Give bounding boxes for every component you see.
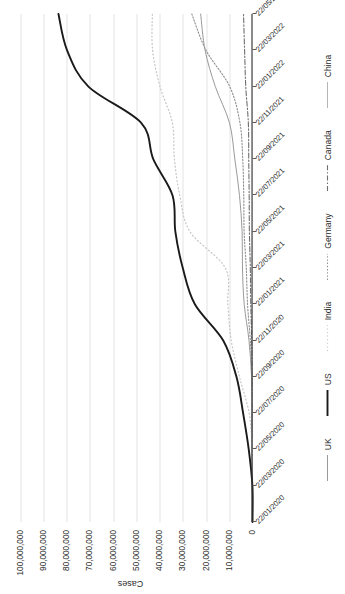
- chart-screenshot: Cases 010,000,00020,000,00030,000,00040,…: [0, 0, 345, 594]
- x-axis-tick-label: 22/05/2021: [254, 204, 286, 236]
- x-axis-tick-label: 22/01/2022: [254, 58, 286, 90]
- y-axis-tick-label: 20,000,000: [201, 530, 209, 571]
- x-axis-tick-labels: 22/01/202022/03/202022/05/202022/07/2020…: [252, 14, 310, 522]
- rotated-figure-container: Cases 010,000,00020,000,00030,000,00040,…: [0, 0, 345, 594]
- y-axis-tick-labels: 010,000,00020,000,00030,000,00040,000,00…: [8, 526, 252, 594]
- legend-swatch-india-icon: [323, 325, 331, 351]
- legend-item-uk[interactable]: UK: [322, 438, 332, 481]
- series-line-us: [58, 14, 252, 522]
- x-axis-tick-label: 22/01/2020: [254, 494, 286, 526]
- legend-item-china[interactable]: China: [322, 55, 332, 108]
- legend-label: US: [322, 373, 332, 385]
- series-lines: [8, 14, 252, 522]
- y-axis-tick-label: 60,000,000: [108, 530, 116, 571]
- legend-item-germany[interactable]: Germany: [322, 213, 332, 279]
- x-axis-tick-label: 22/05/2020: [254, 421, 286, 453]
- legend-swatch-china-icon: [323, 82, 331, 108]
- figure-inner: Cases 010,000,00020,000,00030,000,00040,…: [0, 0, 345, 594]
- y-axis-tick-label: 90,000,000: [39, 530, 47, 571]
- y-axis-tick-label: 80,000,000: [62, 530, 70, 571]
- x-axis-tick-label: 22/05/2022: [254, 0, 286, 17]
- legend-item-india[interactable]: India: [322, 302, 332, 352]
- x-axis-tick-label: 22/03/2021: [254, 240, 286, 272]
- x-axis-tick-label: 22/03/2020: [254, 458, 286, 490]
- legend-item-us[interactable]: US: [322, 373, 332, 416]
- x-axis-tick-label: 22/11/2021: [254, 95, 285, 126]
- y-axis-tick-label: 100,000,000: [15, 530, 23, 575]
- x-axis-tick-label: 22/11/2020: [254, 313, 285, 344]
- legend-swatch-germany-icon: [323, 254, 331, 280]
- series-line-india: [151, 14, 252, 522]
- y-axis-tick-label: 30,000,000: [178, 530, 186, 571]
- y-axis-tick-label: 10,000,000: [225, 530, 233, 571]
- legend-label: UK: [322, 438, 332, 450]
- y-axis-tick-label: 70,000,000: [85, 530, 93, 571]
- y-axis-tick-label: 40,000,000: [155, 530, 163, 571]
- legend-label: Canada: [322, 130, 332, 160]
- legend-label: China: [322, 55, 332, 77]
- plot-area: [8, 14, 252, 522]
- chart-legend: UKUSIndiaGermanyCanadaChina: [316, 14, 338, 522]
- x-axis-tick-label: 22/01/2021: [254, 276, 286, 308]
- legend-label: India: [322, 302, 332, 321]
- legend-swatch-canada-icon: [323, 165, 331, 191]
- legend-label: Germany: [322, 213, 332, 248]
- x-axis-tick-label: 22/09/2020: [254, 349, 286, 381]
- legend-item-canada[interactable]: Canada: [322, 130, 332, 191]
- legend-swatch-us-icon: [323, 390, 331, 416]
- y-axis-tick-label: 50,000,000: [132, 530, 140, 571]
- x-axis-tick-label: 22/07/2021: [254, 167, 286, 199]
- x-axis-tick-label: 22/09/2021: [254, 131, 286, 163]
- legend-swatch-uk-icon: [323, 455, 331, 481]
- y-axis-tick-label: 0: [248, 530, 256, 535]
- series-line-uk: [200, 14, 252, 522]
- x-axis-tick-label: 22/07/2020: [254, 385, 286, 417]
- x-axis-tick-label: 22/03/2022: [254, 22, 286, 54]
